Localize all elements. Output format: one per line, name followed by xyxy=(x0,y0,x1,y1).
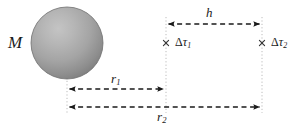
radius-r1-label-index: 1 xyxy=(116,77,120,87)
mass-sphere-body xyxy=(31,7,103,79)
radius-r1-label: r1 xyxy=(111,72,121,87)
observer-2-delta-glyph: Δ xyxy=(271,35,279,49)
observer-1-delta-glyph: Δ xyxy=(175,35,183,49)
mass-sphere xyxy=(31,7,103,79)
radius-r2-label: r2 xyxy=(157,110,167,125)
observer-2-index: 2 xyxy=(283,41,287,50)
mass-label: M xyxy=(8,34,22,51)
observer-2-proper-time-label: Δτ2 xyxy=(271,36,287,50)
diagram-svg xyxy=(0,0,289,126)
observer-1-proper-time-label: Δτ1 xyxy=(175,36,191,50)
figure-canvas: M h r1 r2 Δτ1 Δτ2 xyxy=(0,0,289,126)
observer-1-index: 1 xyxy=(187,41,191,50)
height-label: h xyxy=(206,6,213,19)
radius-r2-label-index: 2 xyxy=(162,115,166,125)
